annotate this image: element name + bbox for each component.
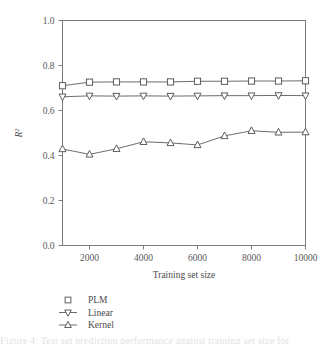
caption-ghost-text: Figure 4: Test set prediction performanc…: [0, 335, 324, 344]
x-tick-label: 10000: [294, 253, 318, 263]
x-tick-label: 4000: [134, 253, 153, 263]
y-tick-label: 0.8: [43, 61, 55, 71]
series-plm: [59, 78, 308, 89]
x-axis-ticks: 200040006000800010000: [80, 246, 318, 263]
marker-triangle-up: [275, 128, 282, 135]
marker-triangle-down: [167, 93, 174, 100]
marker-square: [302, 78, 308, 84]
marker-square: [113, 79, 119, 85]
marker-triangle-down: [140, 93, 147, 100]
y-axis-title: R2: [13, 128, 25, 139]
series-line: [63, 81, 306, 86]
marker-triangle-up: [167, 139, 174, 146]
x-tick-label: 2000: [80, 253, 99, 263]
y-tick-label: 0.6: [43, 106, 55, 116]
marker-triangle-up: [140, 138, 147, 145]
y-tick-label: 0.4: [43, 151, 55, 161]
legend-item-plm[interactable]: PLM: [65, 295, 108, 305]
legend-item-kernel[interactable]: Kernel: [59, 320, 114, 330]
y-tick-label: 0.2: [43, 196, 55, 206]
plot-frame: [63, 21, 306, 246]
series-line: [63, 95, 306, 96]
marker-triangle-up: [248, 127, 255, 134]
marker-triangle-down: [59, 94, 66, 101]
marker-triangle-up: [59, 145, 66, 152]
marker-square: [167, 79, 173, 85]
marker-triangle-down: [86, 93, 93, 100]
series-linear: [59, 93, 309, 101]
legend-item-label: Kernel: [88, 320, 114, 330]
marker-square: [221, 78, 227, 84]
marker-square: [65, 297, 71, 303]
legend-item-linear[interactable]: Linear: [59, 308, 114, 318]
x-tick-label: 6000: [188, 253, 207, 263]
marker-square: [140, 79, 146, 85]
legend-item-label: PLM: [88, 295, 108, 305]
y-axis-ticks: 0.00.20.40.60.81.0: [43, 16, 63, 251]
figure-container: 0.00.20.40.60.81.0 200040006000800010000…: [0, 0, 324, 344]
marker-square: [275, 78, 281, 84]
marker-triangle-up: [65, 321, 72, 327]
series-line: [63, 131, 306, 155]
legend: PLMLinearKernel: [59, 295, 114, 330]
x-tick-label: 8000: [242, 253, 261, 263]
y-tick-label: 1.0: [43, 16, 55, 26]
marker-triangle-down: [113, 93, 120, 100]
marker-triangle-down: [194, 93, 201, 100]
marker-triangle-down: [302, 93, 309, 100]
series-kernel: [59, 127, 309, 157]
x-axis-title: Training set size: [153, 270, 215, 280]
marker-triangle-down: [248, 93, 255, 100]
marker-triangle-down: [221, 93, 228, 100]
marker-triangle-down: [275, 93, 282, 100]
series-layer: [59, 78, 309, 157]
marker-triangle-up: [302, 128, 309, 135]
r2-vs-training-set-size-chart: 0.00.20.40.60.81.0 200040006000800010000…: [0, 0, 324, 344]
marker-square: [59, 83, 65, 89]
legend-item-label: Linear: [88, 308, 114, 318]
y-tick-label: 0.0: [43, 241, 55, 251]
marker-square: [194, 78, 200, 84]
marker-square: [248, 78, 254, 84]
svg-text:R2: R2: [13, 128, 25, 139]
marker-triangle-down: [65, 310, 72, 316]
marker-square: [86, 79, 92, 85]
